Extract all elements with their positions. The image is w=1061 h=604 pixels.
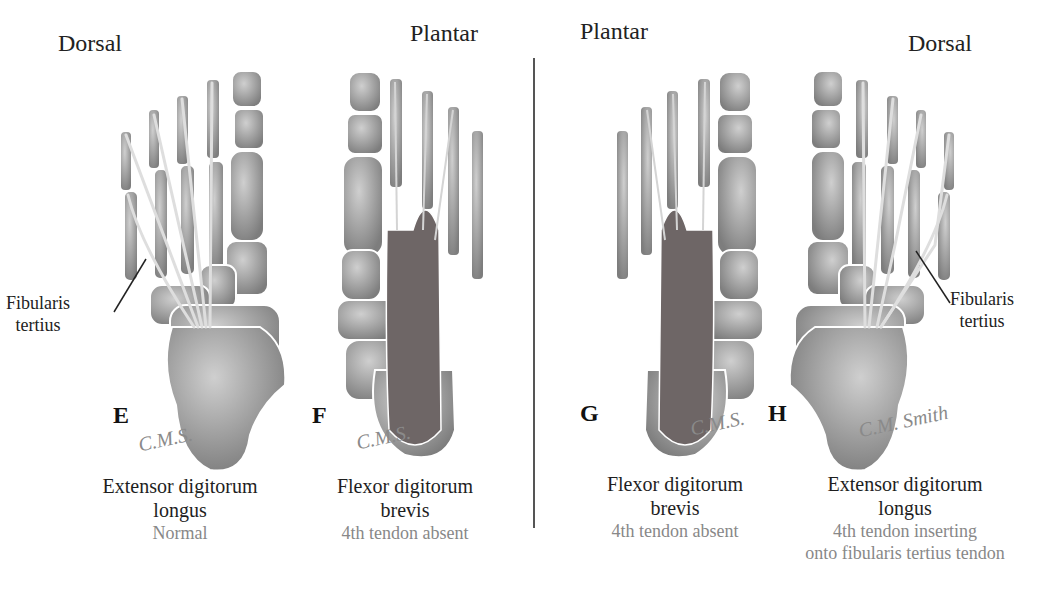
panel-letter-g: G [580,400,599,427]
caption-h-note-line2: onto fibularis tertius tendon [760,542,1050,564]
caption-f-muscle-line1: Flexor digitorum [285,474,525,498]
panel-letter-h: H [768,400,787,427]
caption-f-note: 4th tendon absent [285,522,525,544]
callout-fibularis-tertius-left: Fibularis tertius [6,292,70,336]
panel-letter-e: E [113,402,129,429]
caption-g-muscle-line1: Flexor digitorum [555,472,795,496]
callout-right-line1: Fibularis [950,289,1014,309]
leader-line-left [114,259,146,312]
callout-fibularis-tertius-right: Fibularis tertius [950,288,1014,332]
caption-f-muscle-line2: brevis [285,498,525,522]
caption-h-muscle-line1: Extensor digitorum [760,472,1050,496]
panel-letter-f: F [312,402,327,429]
caption-g: Flexor digitorum brevis 4th tendon absen… [555,472,795,542]
callout-right-line2: tertius [960,311,1005,331]
caption-h: Extensor digitorum longus 4th tendon ins… [760,472,1050,564]
caption-e-muscle-line1: Extensor digitorum [60,474,300,498]
caption-e-muscle-line2: longus [60,498,300,522]
caption-g-note: 4th tendon absent [555,520,795,542]
caption-h-muscle-line2: longus [760,496,1050,520]
callout-left-line1: Fibularis [6,293,70,313]
callout-left-line2: tertius [16,315,61,335]
caption-g-muscle-line2: brevis [555,496,795,520]
caption-h-note-line1: 4th tendon inserting [760,520,1050,542]
caption-e: Extensor digitorum longus Normal [60,474,300,544]
caption-f: Flexor digitorum brevis 4th tendon absen… [285,474,525,544]
caption-e-note: Normal [60,522,300,544]
leader-line-right [916,251,950,303]
